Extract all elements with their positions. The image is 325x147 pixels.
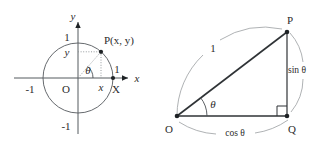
vertex-q-marker [285,114,290,119]
hypotenuse-side-op [177,32,287,116]
y-coordinate-label: y [64,46,70,58]
vertex-q-label: Q [288,123,296,135]
y-axis-label: y [70,10,76,22]
x-axis-label: x [134,72,140,84]
y-tick-one-label: 1 [64,31,70,43]
sin-theta-label: sin θ [288,65,306,75]
vertex-p-marker [285,30,290,35]
x-coordinate-label: x [98,81,104,93]
sin-guide-arc-top [290,33,303,62]
unit-x-point-marker [111,76,115,80]
angle-theta-label: θ [85,64,91,76]
hypotenuse-guide-arc-upper [220,27,282,40]
cos-guide-arc-right [255,120,288,133]
vertex-o-label: O [165,123,173,135]
cos-guide-arc-left [179,122,216,134]
trigonometry-figure: y x 1 -1 -1 1 O P(x, y) y x X θ [0,0,325,147]
vertex-o-marker [175,114,180,119]
angle-arc-theta [200,97,207,116]
vertex-p-label: P [287,14,293,26]
origin-label: O [62,83,70,95]
x-tick-one-label: 1 [114,63,120,75]
hypotenuse-label: 1 [210,42,216,54]
cos-theta-label: cos θ [225,128,245,138]
y-axis-arrowhead [75,22,80,28]
y-tick-minus-one-label: -1 [61,120,70,132]
x-intercept-label: X [112,83,120,95]
point-p-label: P(x, y) [104,34,134,47]
angle-theta-label: θ [210,98,216,110]
unit-circle-diagram: y x 1 -1 -1 1 O P(x, y) y x X θ [0,0,163,147]
x-axis-arrowhead [122,75,128,80]
sin-guide-arc-bottom [291,79,303,112]
right-triangle-diagram: O Q P 1 sin θ cos θ θ [163,0,325,147]
x-tick-minus-one-label: -1 [25,83,34,95]
point-p-marker [99,50,103,54]
